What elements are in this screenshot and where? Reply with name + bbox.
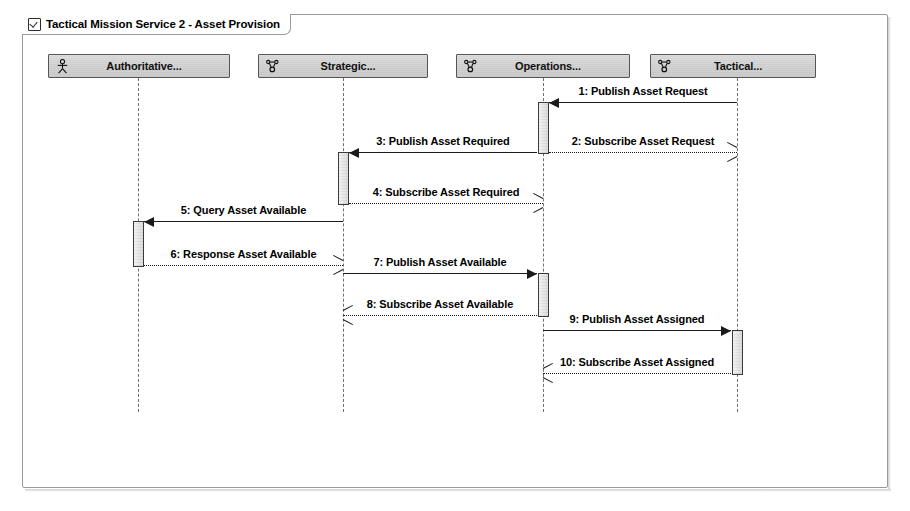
collaboration-icon (259, 59, 285, 73)
message-arrowhead-1 (549, 98, 559, 108)
message-label-8: 8: Subscribe Asset Available (343, 298, 537, 310)
lifeline-head-tactical[interactable]: Tactical... (650, 54, 816, 78)
message-label-3: 3: Publish Asset Required (349, 135, 537, 147)
actor-icon (49, 59, 75, 74)
collaboration-icon (457, 59, 483, 73)
frame-drop-shadow-right (888, 17, 891, 489)
message-arrowhead-2 (726, 146, 737, 158)
activation-bar-operations[interactable] (538, 102, 549, 154)
activation-bar-authoritative[interactable] (133, 221, 144, 267)
lifeline-head-authoritative[interactable]: Authoritative... (48, 54, 230, 78)
lifeline-head-operations[interactable]: Operations... (456, 54, 630, 78)
checkbox-checked-icon (28, 18, 41, 31)
message-line-2[interactable] (549, 152, 737, 153)
message-line-6[interactable] (144, 265, 343, 266)
message-arrowhead-10 (543, 367, 554, 379)
message-arrowhead-9 (721, 326, 731, 336)
message-line-1[interactable] (549, 102, 737, 103)
sequence-diagram-canvas: Tactical Mission Service 2 - Asset Provi… (0, 0, 910, 511)
message-line-7[interactable] (343, 273, 537, 274)
diagram-title-label: Tactical Mission Service 2 - Asset Provi… (46, 18, 280, 30)
frame-drop-shadow-bottom (25, 489, 891, 492)
message-label-2: 2: Subscribe Asset Request (549, 135, 737, 147)
message-label-4: 4: Subscribe Asset Required (349, 186, 543, 198)
message-label-10: 10: Subscribe Asset Assigned (543, 356, 731, 368)
lifeline-label-operations: Operations... (483, 60, 629, 72)
message-arrowhead-4 (532, 197, 543, 209)
message-arrowhead-3 (349, 148, 359, 158)
message-label-5: 5: Query Asset Available (144, 204, 343, 216)
activation-bar-tactical[interactable] (732, 330, 743, 375)
lifeline-head-strategic[interactable]: Strategic... (258, 54, 428, 78)
lifeline-label-strategic: Strategic... (285, 60, 427, 72)
activation-bar-strategic[interactable] (338, 152, 349, 205)
lifeline-strategic[interactable] (343, 78, 344, 412)
message-line-5[interactable] (144, 221, 343, 222)
collaboration-icon (651, 59, 677, 73)
message-arrowhead-5 (144, 217, 154, 227)
message-line-10[interactable] (543, 373, 731, 374)
message-arrowhead-8 (343, 309, 354, 321)
message-arrowhead-7 (527, 269, 537, 279)
message-line-4[interactable] (349, 203, 543, 204)
activation-bar-operations[interactable] (538, 273, 549, 317)
lifeline-label-tactical: Tactical... (677, 60, 815, 72)
message-line-9[interactable] (543, 330, 731, 331)
message-label-7: 7: Publish Asset Available (343, 256, 537, 268)
message-arrowhead-6 (332, 259, 343, 271)
message-label-9: 9: Publish Asset Assigned (543, 313, 731, 325)
message-line-8[interactable] (343, 315, 537, 316)
diagram-frame-title: Tactical Mission Service 2 - Asset Provi… (22, 14, 291, 35)
message-label-6: 6: Response Asset Available (144, 248, 343, 260)
message-label-1: 1: Publish Asset Request (549, 85, 737, 97)
message-line-3[interactable] (349, 152, 537, 153)
lifeline-label-authoritative: Authoritative... (75, 60, 229, 72)
